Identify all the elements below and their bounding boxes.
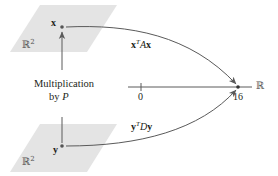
- point-x: [60, 25, 64, 29]
- arrow-label-line1: Multiplication: [34, 79, 94, 90]
- point-y-label: y: [53, 145, 58, 155]
- label-y: y: [147, 121, 152, 132]
- tick-16-label: 16: [233, 92, 243, 102]
- space-exponent: 2: [30, 38, 34, 46]
- matrix-p: P: [62, 91, 68, 102]
- tick-zero-label: 0: [138, 92, 143, 102]
- bottom-plane-space-label: ℝ2: [22, 157, 35, 167]
- real-line-label: ℝ: [256, 81, 264, 91]
- top-plane-space-label: ℝ2: [22, 40, 35, 50]
- arrow-label-line2: by P: [49, 92, 69, 103]
- point-y: [60, 144, 64, 148]
- label-x: x: [146, 39, 151, 50]
- point-x-label: x: [51, 18, 56, 28]
- quadratic-form-diagram: ℝ2 x ℝ2 y Multiplication by P xTAx yTDy …: [0, 0, 278, 176]
- space-exponent: 2: [30, 155, 34, 163]
- bottom-curve-label: yTDy: [131, 122, 152, 132]
- label-prefix: by: [49, 91, 62, 102]
- top-curve-label: xTAx: [131, 40, 151, 50]
- point-16: [236, 85, 240, 89]
